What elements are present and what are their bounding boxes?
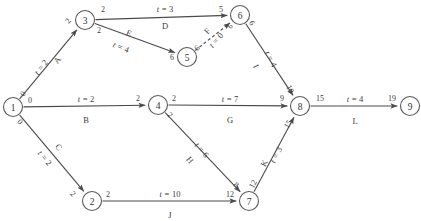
edge-duration-H: t = 6 xyxy=(193,140,211,159)
edge-start-time-B: 0 xyxy=(28,96,32,105)
edge-start-time-J: 2 xyxy=(106,190,110,199)
edge-end-time-C: 2 xyxy=(68,190,77,199)
edge-end-time-L: 19 xyxy=(388,94,396,103)
edge-duration-G: t = 7 xyxy=(222,94,239,104)
edge-start-time-L: 15 xyxy=(316,94,324,103)
edge-start-time-K: 12 xyxy=(247,178,259,189)
edge-end-time-B: 2 xyxy=(136,94,140,103)
edge-end-time-G: 9 xyxy=(280,94,284,103)
edge-duration-C: t = 2 xyxy=(36,148,54,167)
labels-layer: At = 202Bt = 202Ct = 202Dt = 325Et = 426… xyxy=(15,4,396,220)
edge-C xyxy=(20,115,84,191)
edge-end-time-A: 2 xyxy=(63,17,73,26)
node-5: 5 xyxy=(178,48,197,67)
edge-end-time-E: 6 xyxy=(170,53,174,62)
edge-G xyxy=(168,105,287,106)
edge-label-F: F xyxy=(202,26,213,36)
edge-start-time-E: 2 xyxy=(97,26,101,35)
network-diagram-canvas: 123456789 At = 202Bt = 202Ct = 202Dt = 3… xyxy=(0,0,421,221)
edge-label-B: B xyxy=(83,115,89,125)
edge-duration-D: t = 3 xyxy=(157,4,174,14)
node-label-3: 3 xyxy=(83,16,88,26)
edge-label-J: J xyxy=(168,210,172,220)
node-8: 8 xyxy=(291,97,310,116)
node-label-5: 5 xyxy=(185,53,190,63)
edge-label-D: D xyxy=(162,21,168,31)
edge-label-I: I xyxy=(251,62,261,69)
edge-start-time-C: 0 xyxy=(15,118,24,127)
node-label-9: 9 xyxy=(408,102,413,112)
edge-duration-K: t = 3 xyxy=(268,145,285,164)
edge-end-time-D: 5 xyxy=(219,5,223,14)
node-3: 3 xyxy=(76,11,95,30)
node-9: 9 xyxy=(401,97,420,116)
edge-label-L: L xyxy=(352,116,357,126)
edge-duration-L: t = 4 xyxy=(347,94,364,104)
edge-duration-J: t = 10 xyxy=(160,189,181,199)
node-7: 7 xyxy=(240,192,259,211)
edge-B xyxy=(23,105,145,107)
edge-end-time-H: 8 xyxy=(231,181,240,190)
edge-label-H: H xyxy=(184,154,196,165)
node-label-8: 8 xyxy=(298,102,303,112)
edge-duration-E: t = 4 xyxy=(111,39,131,55)
edge-duration-B: t = 2 xyxy=(78,94,95,104)
edge-end-time-J: 12 xyxy=(226,190,234,199)
edge-start-time-D: 2 xyxy=(101,5,105,14)
node-label-7: 7 xyxy=(247,197,252,207)
edge-D xyxy=(95,15,227,19)
edge-start-time-G: 2 xyxy=(172,94,176,103)
edge-label-C: C xyxy=(53,142,65,153)
node-4: 4 xyxy=(149,96,168,115)
network-diagram: 123456789 At = 202Bt = 202Ct = 202Dt = 3… xyxy=(0,0,421,221)
node-label-6: 6 xyxy=(238,11,243,21)
node-label-4: 4 xyxy=(156,101,161,111)
edge-duration-I: t = 4 xyxy=(263,49,280,69)
edge-label-G: G xyxy=(227,115,233,125)
node-label-2: 2 xyxy=(90,197,95,207)
edge-label-A: A xyxy=(51,54,63,66)
node-1: 1 xyxy=(4,98,23,117)
node-label-1: 1 xyxy=(11,103,16,113)
node-6: 6 xyxy=(231,6,250,25)
edge-duration-A: t = 2 xyxy=(32,57,50,76)
node-2: 2 xyxy=(83,192,102,211)
edge-start-time-I: 6 xyxy=(247,19,257,27)
